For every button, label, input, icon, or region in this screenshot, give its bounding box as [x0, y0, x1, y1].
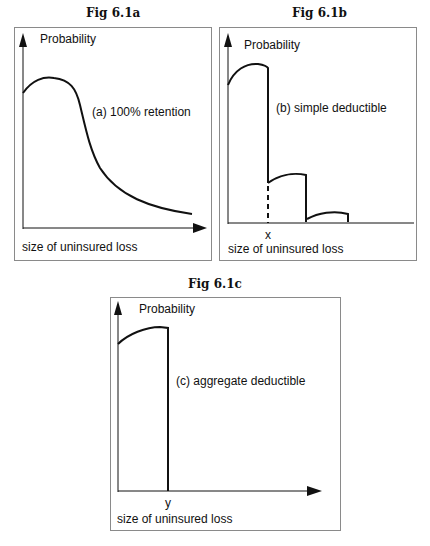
fig-a-x-arrow-icon — [193, 223, 207, 233]
fig-c-annotation: (c) aggregate deductible — [176, 374, 305, 388]
fig-b-ylabel: Probability — [244, 38, 300, 52]
plots-canvas — [0, 0, 430, 546]
fig-a-ylabel: Probability — [40, 32, 96, 46]
fig-c-ylabel: Probability — [139, 302, 195, 316]
fig-b-segment-2 — [268, 174, 306, 222]
fig-b-x-marker: x — [265, 228, 271, 242]
fig-c-xlabel: size of uninsured loss — [117, 512, 232, 526]
fig-b-plot — [224, 33, 414, 224]
fig-c-plot — [114, 301, 322, 496]
fig-c-curve — [118, 327, 168, 491]
fig-b-y-arrow-icon — [224, 33, 232, 47]
fig-a-annotation: (a) 100% retention — [92, 105, 191, 119]
fig-c-x-arrow-icon — [307, 486, 322, 496]
fig-a-curve — [23, 78, 192, 214]
fig-b-segment-1 — [228, 64, 268, 183]
fig-a-plot — [19, 33, 207, 233]
fig-b-segment-3 — [307, 212, 348, 222]
fig-c-x-marker: y — [165, 496, 171, 510]
fig-a-y-arrow-icon — [19, 33, 27, 47]
fig-c-y-arrow-icon — [114, 301, 122, 315]
fig-b-xlabel: size of uninsured loss — [228, 242, 343, 256]
fig-b-annotation: (b) simple deductible — [276, 101, 387, 115]
fig-a-xlabel: size of uninsured loss — [22, 240, 137, 254]
